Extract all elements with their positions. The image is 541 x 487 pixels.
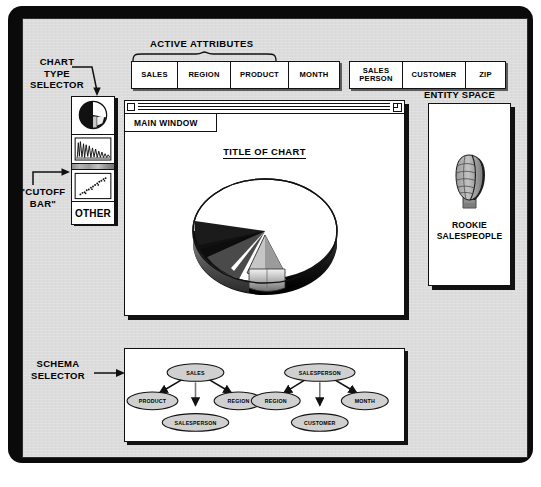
- schema-node-label: PRODUCT: [139, 398, 167, 404]
- chart-title: TITLE OF CHART: [125, 146, 404, 157]
- chart-type-line-option[interactable]: [71, 134, 115, 164]
- attribute-region[interactable]: REGION: [178, 62, 231, 88]
- schema-selector-label: SCHEMA SELECTOR: [22, 358, 94, 381]
- zoom-box-icon[interactable]: [393, 103, 402, 112]
- schema-tree-salesperson: SALESPERSON REGION MONTH CUSTOMER: [251, 364, 388, 432]
- pie-chart-icon: [72, 97, 114, 135]
- schema-tree-sales: SALES PRODUCT REGION SALESPERSON: [127, 364, 263, 432]
- chart-type-pie-option[interactable]: [71, 96, 115, 136]
- chart-type-selector-arrow: [70, 62, 116, 102]
- attribute-sales[interactable]: SALES: [132, 62, 178, 88]
- schema-node-label: REGION: [265, 398, 287, 404]
- entity-space-label: ENTITY SPACE: [424, 89, 495, 100]
- pie-chart[interactable]: [187, 161, 343, 301]
- schema-trees: SALES PRODUCT REGION SALESPERSON SALESPE…: [125, 349, 404, 441]
- schema-selector-arrow: [94, 365, 128, 381]
- scatter-plot-icon: [72, 170, 114, 202]
- main-window[interactable]: MAIN WINDOW TITLE OF CHART: [124, 100, 405, 316]
- schema-node-label: SALESPERSON: [175, 420, 217, 426]
- schema-node-label: SALES: [186, 370, 205, 376]
- main-window-titlebar[interactable]: [125, 101, 404, 114]
- active-attributes-label: ACTIVE ATTRIBUTES: [150, 38, 253, 49]
- entity-space-panel[interactable]: ROOKIE SALESPEOPLE: [428, 103, 511, 286]
- schema-selector-panel[interactable]: SALES PRODUCT REGION SALESPERSON SALESPE…: [124, 348, 405, 442]
- attribute-group-gap: [340, 61, 349, 89]
- chart-type-selector[interactable]: OTHER: [71, 96, 115, 224]
- attribute-month[interactable]: MONTH: [289, 62, 339, 88]
- cutoff-bar-label: "CUTOFF BAR": [12, 186, 74, 209]
- schema-node-label: MONTH: [355, 398, 375, 404]
- attribute-salesperson[interactable]: SALES PERSON: [350, 62, 403, 88]
- line-chart-icon: [72, 135, 114, 163]
- cutoff-bar-arrow: [28, 158, 74, 188]
- chart-type-other-option[interactable]: OTHER: [71, 201, 115, 225]
- attribute-bar: SALES REGION PRODUCT MONTH SALES PERSON …: [131, 61, 506, 89]
- schema-node-label: SALESPERSON: [299, 370, 341, 376]
- attribute-zip[interactable]: ZIP: [466, 62, 505, 88]
- entity-item-label: ROOKIE SALESPEOPLE: [429, 220, 510, 241]
- active-attribute-group: SALES REGION PRODUCT MONTH: [131, 61, 340, 89]
- inactive-attribute-group: SALES PERSON CUSTOMER ZIP: [349, 61, 506, 89]
- diagram-screenshot: ACTIVE ATTRIBUTES SALES REGION PRODUCT M…: [0, 0, 541, 487]
- schema-node-label: CUSTOMER: [304, 420, 336, 426]
- titlebar-stripes: [138, 103, 390, 112]
- schema-node-label: REGION: [228, 398, 250, 404]
- chart-type-scatter-option[interactable]: [71, 169, 115, 203]
- attribute-customer[interactable]: CUSTOMER: [403, 62, 466, 88]
- close-box-icon[interactable]: [127, 103, 135, 111]
- pie-chart-graphic: [187, 161, 343, 301]
- head-bust-icon: [445, 151, 495, 213]
- chart-title-text: TITLE OF CHART: [223, 146, 306, 159]
- attribute-product[interactable]: PRODUCT: [231, 62, 289, 88]
- active-attributes-brace: [132, 51, 277, 62]
- main-window-tab[interactable]: MAIN WINDOW: [125, 114, 217, 132]
